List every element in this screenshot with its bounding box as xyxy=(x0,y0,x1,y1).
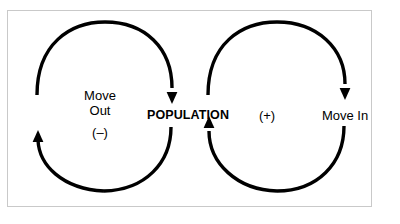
move-in-label: Move In xyxy=(306,109,384,124)
move-out-loop-arrowhead-up xyxy=(33,130,44,142)
diagram-screenshot: Move Out (–) POPULATION (+) Move In xyxy=(0,0,400,224)
population-node-label: POPULATION xyxy=(142,108,234,122)
move-out-loop-arrowhead-into-population xyxy=(167,92,178,104)
move-out-label: Move Out xyxy=(68,89,132,118)
move-out-label-line2: Out xyxy=(68,104,132,119)
move-out-label-line1: Move xyxy=(68,89,132,104)
move-in-polarity-label: (+) xyxy=(245,109,289,124)
move-in-loop-arrowhead-down xyxy=(340,88,351,100)
move-in-loop xyxy=(204,22,351,191)
move-out-polarity-label: (–) xyxy=(68,126,132,141)
